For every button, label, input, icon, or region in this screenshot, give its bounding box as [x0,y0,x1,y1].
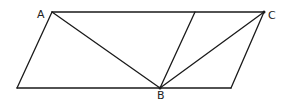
segment-ab [52,12,160,88]
label-c: C [268,9,276,22]
point-c-dot [263,11,266,14]
left-edge [17,12,52,88]
label-b: B [157,89,165,100]
segment-bc [160,12,264,88]
segment-b-top [160,12,195,88]
label-a: A [37,8,45,21]
parallelogram-diagram: A C B [0,0,287,100]
